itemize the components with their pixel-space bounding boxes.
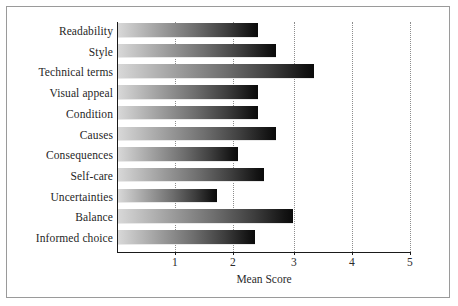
bar: [118, 127, 276, 141]
bar-category-label: Readability: [0, 25, 113, 37]
bar-row: Uncertainties: [0, 188, 458, 209]
bar: [118, 189, 217, 203]
bar-category-label: Self-care: [0, 170, 113, 182]
x-tick-mark-1: [175, 252, 176, 255]
bar-category-label: Visual appeal: [0, 87, 113, 99]
bar-category-label: Informed choice: [0, 232, 113, 244]
bar-baseline-shade: [118, 244, 255, 245]
bar-baseline-shade: [118, 140, 276, 141]
bar-category-label: Style: [0, 46, 113, 58]
x-tick-label-5: 5: [395, 256, 425, 268]
bar: [118, 23, 258, 37]
bar-row: Readability: [0, 22, 458, 43]
bar-baseline-shade: [118, 181, 264, 182]
plot-area: 1 2 3 4 5 Mean Score ReadabilityStyleTec…: [0, 0, 458, 306]
bar-baseline-shade: [118, 119, 258, 120]
bar: [118, 64, 314, 78]
bar: [118, 230, 255, 244]
bar-row: Informed choice: [0, 229, 458, 250]
bar-category-label: Uncertainties: [0, 191, 113, 203]
x-axis-line: [117, 252, 411, 253]
bar-category-label: Balance: [0, 211, 113, 223]
bar: [118, 147, 238, 161]
chart-figure: 1 2 3 4 5 Mean Score ReadabilityStyleTec…: [0, 0, 458, 306]
bar-baseline-shade: [118, 78, 314, 79]
bar: [118, 168, 264, 182]
x-tick-label-4: 4: [337, 256, 367, 268]
bar-row: Consequences: [0, 146, 458, 167]
bar: [118, 44, 276, 58]
bar-baseline-shade: [118, 57, 276, 58]
bar-baseline-shade: [118, 223, 293, 224]
bar-baseline-shade: [118, 37, 258, 38]
bar-row: Causes: [0, 126, 458, 147]
bar-row: Style: [0, 43, 458, 64]
x-tick-label-3: 3: [279, 256, 309, 268]
bar-category-label: Condition: [0, 108, 113, 120]
x-tick-mark-5: [410, 252, 411, 255]
x-tick-mark-2: [233, 252, 234, 255]
x-tick-label-2: 2: [218, 256, 248, 268]
bar: [118, 85, 258, 99]
x-tick-label-1: 1: [160, 256, 190, 268]
bar-row: Visual appeal: [0, 84, 458, 105]
x-axis-title: Mean Score: [117, 273, 411, 285]
bar-category-label: Consequences: [0, 149, 113, 161]
x-tick-mark-4: [352, 252, 353, 255]
bar: [118, 106, 258, 120]
bar-baseline-shade: [118, 161, 238, 162]
bar-row: Self-care: [0, 167, 458, 188]
bar-category-label: Technical terms: [0, 66, 113, 78]
bar-row: Condition: [0, 105, 458, 126]
bar-category-label: Causes: [0, 129, 113, 141]
bar-baseline-shade: [118, 202, 217, 203]
bar-row: Technical terms: [0, 63, 458, 84]
x-tick-mark-3: [294, 252, 295, 255]
bar-baseline-shade: [118, 99, 258, 100]
bar-row: Balance: [0, 208, 458, 229]
bar: [118, 209, 293, 223]
